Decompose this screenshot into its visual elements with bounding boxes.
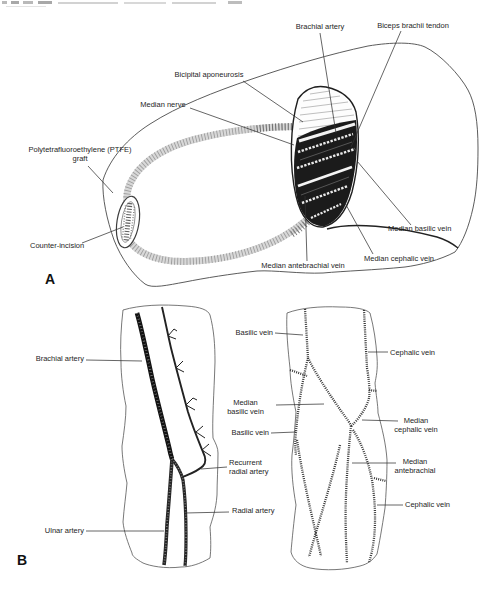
label-median-antebrachial: Median antebrachial [391, 457, 439, 475]
label-cephalic-vein-upper: Cephalic vein [390, 348, 446, 357]
label-radial-artery: Radial artery [232, 506, 284, 515]
panel-b-arterial-diagram [86, 305, 229, 568]
panel-b-venous-diagram [271, 307, 403, 570]
label-basilic-vein-upper: Basilic vein [223, 328, 273, 337]
label-median-basilic-vein-b: Median basilic vein [218, 398, 273, 416]
label-counter-incision: Counter-incision [30, 241, 94, 250]
label-ptfe-graft: Polytetrafluoroethylene (PTFE) graft [14, 145, 146, 163]
label-median-cephalic-vein-b: Median cephalic vein [390, 416, 442, 434]
label-bicipital-aponeurosis: Bicipital aponeurosis [166, 70, 252, 79]
label-cephalic-vein-lower: Cephalic vein [405, 500, 461, 509]
label-median-cephalic-vein-a: Median cephalic vein [364, 254, 444, 263]
label-median-antebrachial-vein: Median antebrachial vein [255, 261, 351, 270]
label-median-nerve: Median nerve [132, 100, 194, 109]
label-recurrent-radial-artery: Recurrent radial artery [229, 458, 285, 476]
forearm-outline-venous [287, 307, 387, 570]
label-brachial-artery-a: Brachial artery [284, 22, 356, 31]
label-median-basilic-vein-a: Median basilic vein [388, 224, 466, 233]
label-basilic-vein-lower: Basilic vein [219, 428, 269, 437]
label-brachial-artery-b: Brachial artery [24, 354, 84, 363]
label-biceps-brachii-tendon: Biceps brachii tendon [358, 21, 468, 30]
arm-outline [103, 43, 478, 286]
panel-letter-b: B [17, 552, 27, 568]
panel-letter-a: A [45, 271, 55, 287]
label-ulnar-artery: Ulnar artery [30, 526, 84, 535]
medical-figure-page: Brachial artery Biceps brachii tendon Bi… [0, 0, 489, 597]
